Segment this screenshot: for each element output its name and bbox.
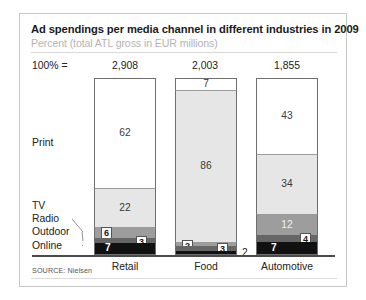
- segment-retail-online[interactable]: 7: [94, 243, 156, 255]
- value-retail-online: 7: [105, 243, 111, 253]
- segment-retail-print[interactable]: 62: [94, 78, 156, 188]
- bar-food[interactable]: 7 86 2 3 2: [175, 78, 237, 255]
- value-retail-print: 62: [119, 128, 130, 138]
- plot-area: 62 22 6 3 7 7: [20, 14, 348, 288]
- value-food-print: 7: [203, 79, 209, 89]
- value-automotive-radio: 12: [281, 220, 292, 230]
- value-automotive-print: 43: [281, 111, 292, 121]
- category-label-automotive: Automotive: [250, 261, 324, 272]
- source-divider: [31, 278, 337, 279]
- segment-food-print[interactable]: 7: [175, 78, 237, 90]
- bar-retail[interactable]: 62 22 6 3 7: [94, 78, 156, 255]
- baseline-axis: [32, 255, 335, 257]
- chart-frame: Ad spendings per media channel in differ…: [19, 13, 347, 287]
- value-food-tv: 86: [200, 161, 211, 171]
- segment-automotive-online[interactable]: 7: [256, 242, 318, 255]
- bar-automotive[interactable]: 43 34 12 4 7: [256, 78, 318, 255]
- segment-retail-tv[interactable]: 22: [94, 188, 156, 227]
- value-automotive-tv: 34: [281, 179, 292, 189]
- category-label-food: Food: [175, 261, 237, 272]
- segment-automotive-print[interactable]: 43: [256, 78, 318, 154]
- segment-automotive-radio[interactable]: 12: [256, 214, 318, 235]
- source-note: SOURCE: Nielsen: [32, 266, 92, 275]
- value-retail-tv: 22: [119, 203, 130, 213]
- segment-automotive-tv[interactable]: 34: [256, 154, 318, 214]
- segment-automotive-outdoor[interactable]: 4: [256, 235, 318, 242]
- segment-food-tv[interactable]: 86: [175, 90, 237, 242]
- category-label-retail: Retail: [94, 261, 156, 272]
- value-automotive-online: 7: [271, 243, 277, 253]
